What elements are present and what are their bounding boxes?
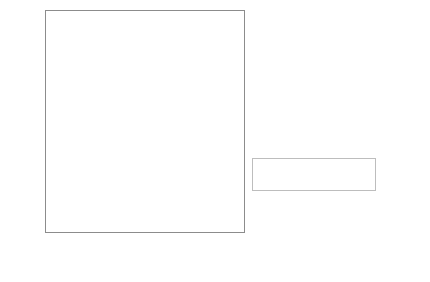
legend-item-speak-pretty-well bbox=[259, 165, 369, 174]
legend-swatch-icon bbox=[259, 165, 280, 174]
plot-area bbox=[45, 10, 245, 233]
legend-swatch-icon bbox=[259, 175, 280, 184]
legend-item-speak-very-well bbox=[259, 175, 369, 184]
legend bbox=[252, 158, 376, 191]
chart-figure bbox=[0, 0, 430, 282]
